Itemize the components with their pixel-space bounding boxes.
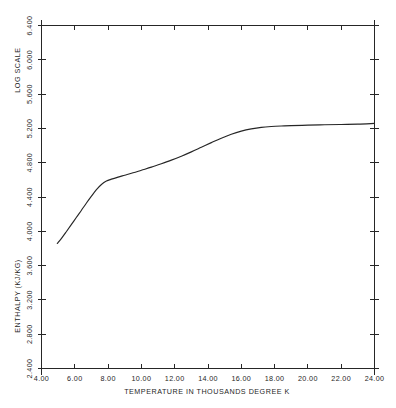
x-tick-label: 4.00 (34, 374, 49, 383)
y-tick-label: 2.800 (25, 324, 34, 344)
y-tick-label: 3.600 (25, 256, 34, 276)
x-tick-label: 14.00 (198, 374, 218, 383)
x-tick-label: 6.00 (67, 374, 82, 383)
x-tick-label: 16.00 (231, 374, 251, 383)
y-tick-label: 2.400 (25, 359, 34, 379)
x-tick-label: 12.00 (165, 374, 185, 383)
x-tick-label: 20.00 (298, 374, 318, 383)
x-axis-title: TEMPERATURE IN THOUSANDS DEGREE K (124, 387, 290, 396)
y-tick-label: 5.200 (25, 119, 34, 139)
y-tick-label: 4.800 (25, 153, 34, 173)
enthalpy-temperature-line-chart: 4.006.008.0010.0012.0014.0016.0018.0020.… (0, 0, 396, 408)
y-tick-label: 5.600 (25, 84, 34, 104)
y-axis-scale-note: LOG SCALE (13, 47, 22, 92)
x-tick-label: 8.00 (100, 374, 115, 383)
y-axis-title: ENTHALPY (KJ/KG) (13, 259, 22, 332)
y-tick-label: 4.400 (25, 187, 34, 207)
chart-figure: 4.006.008.0010.0012.0014.0016.0018.0020.… (0, 0, 396, 408)
x-tick-label: 22.00 (331, 374, 351, 383)
y-tick-label: 4.000 (25, 221, 34, 241)
y-tick-label: 6.400 (25, 16, 34, 36)
x-tick-label: 10.00 (132, 374, 152, 383)
x-tick-label: 24.00 (365, 374, 385, 383)
y-tick-label: 6.000 (25, 50, 34, 70)
chart-background (0, 0, 396, 408)
y-tick-label: 3.200 (25, 290, 34, 310)
x-tick-label: 18.00 (265, 374, 285, 383)
